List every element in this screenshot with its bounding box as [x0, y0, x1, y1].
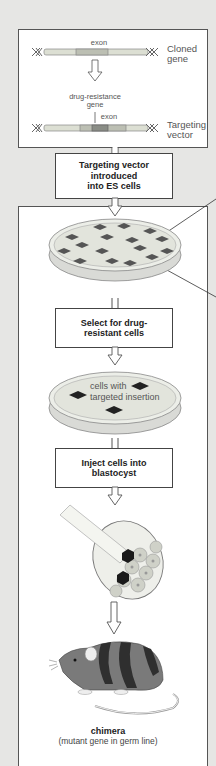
cloned-gene-label: Cloned gene — [167, 44, 197, 64]
step-box-select-cells: Select for drug- resistant cells — [55, 308, 173, 348]
arrow-down-icon — [107, 347, 123, 367]
arrow-down-icon — [88, 60, 102, 82]
chimera-subtitle: (mutant gene in germ line) — [0, 736, 216, 746]
petri-dish-colonies-icon — [45, 215, 185, 285]
step-box-inject-cells: Inject cells into blastocyst — [55, 448, 173, 488]
drug-resistance-gene-label: drug-resistance gene — [60, 93, 130, 109]
blastocyst-injection-icon — [60, 505, 170, 600]
targeted-insertion-label: cells with targeted insertion — [90, 381, 160, 403]
targeting-exon-label: exon — [98, 113, 120, 121]
chimera-title: chimera — [0, 726, 216, 736]
cloned-gene-dna-icon — [30, 46, 160, 58]
chimera-mouse-icon — [55, 638, 185, 718]
step-box-introduce-vector: Targeting vector introduced into ES cell… — [55, 153, 173, 199]
targeting-vector-dna-icon — [30, 122, 160, 134]
petri-dish-targeted-icon — [45, 368, 185, 438]
arrow-down-icon — [106, 602, 122, 636]
targeting-vector-label: Targeting vector — [167, 120, 206, 140]
arrow-down-icon — [107, 487, 123, 507]
